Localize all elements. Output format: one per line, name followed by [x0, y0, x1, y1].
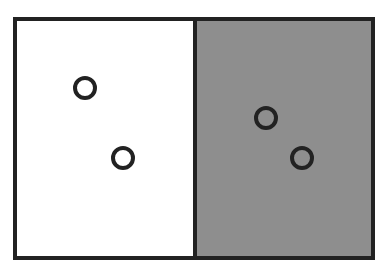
circle-icon	[73, 76, 97, 100]
circle-icon	[290, 146, 314, 170]
circle-icon	[254, 106, 278, 130]
diagram-frame	[13, 17, 375, 260]
circle-icon	[111, 146, 135, 170]
left-panel-white	[17, 21, 197, 256]
right-panel-gray	[197, 21, 371, 256]
